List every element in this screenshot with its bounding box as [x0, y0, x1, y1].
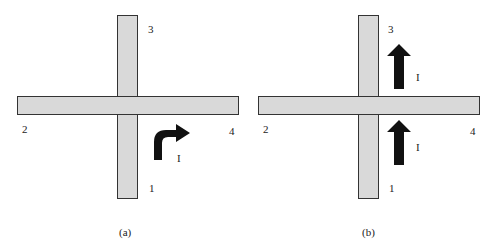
right-turn-arrow-icon [152, 122, 192, 162]
intersection-fill [359, 97, 378, 114]
approach-label-south: 1 [149, 183, 155, 194]
panel-caption: (b) [362, 227, 375, 238]
movement-label-I: I [177, 153, 181, 164]
approach-label-north: 3 [148, 24, 154, 35]
movement-label-I: I [416, 72, 420, 83]
approach-label-west: 2 [22, 124, 28, 135]
approach-label-north: 3 [388, 24, 394, 35]
approach-label-east: 4 [229, 126, 235, 137]
panel-caption: (a) [119, 227, 131, 238]
movement-label-I: I [416, 142, 420, 153]
approach-label-south: 1 [389, 183, 395, 194]
approach-label-west: 2 [263, 124, 269, 135]
up-arrow-icon [386, 120, 412, 166]
panel-a-right-turn: 3 2 4 1 I (a) [0, 0, 247, 250]
approach-label-east: 4 [470, 126, 476, 137]
up-arrow-icon [386, 44, 412, 90]
panel-b-through-movement: 3 2 4 1 I I (b) [248, 0, 495, 250]
intersection-fill [118, 97, 137, 114]
